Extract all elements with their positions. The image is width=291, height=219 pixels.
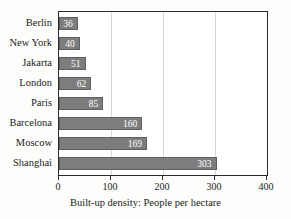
xtick-mark [266, 176, 267, 180]
category-label: Berlin [26, 16, 52, 29]
gridline-200 [163, 12, 164, 175]
bar-value-label: 51 [71, 58, 81, 71]
xtick-mark [58, 176, 59, 180]
category-label: London [19, 76, 52, 89]
bar-moscow: 169 [59, 137, 147, 150]
category-label: Barcelona [9, 116, 52, 129]
plot-area: 36 40 51 62 85 160 169 303 [58, 11, 268, 176]
bar-value-label: 169 [128, 138, 142, 151]
category-label: Shanghai [13, 156, 52, 169]
bar-value-label: 36 [63, 18, 73, 31]
category-label: Paris [31, 96, 52, 109]
bar-barcelona: 160 [59, 117, 142, 130]
category-label: Moscow [16, 136, 52, 149]
xtick-label: 0 [56, 181, 61, 192]
xtick-mark [162, 176, 163, 180]
xtick-mark [110, 176, 111, 180]
category-axis: Berlin New York Jakarta London Paris Bar… [0, 11, 55, 176]
bar-london: 62 [59, 77, 91, 90]
bar-value-label: 160 [123, 118, 137, 131]
bar-jakarta: 51 [59, 57, 86, 70]
xtick-label: 100 [103, 181, 118, 192]
xtick-label: 300 [207, 181, 222, 192]
bar-paris: 85 [59, 97, 103, 110]
bar-value-label: 40 [65, 38, 75, 51]
bar-chart: Berlin New York Jakarta London Paris Bar… [0, 0, 291, 219]
xtick-mark [214, 176, 215, 180]
bar-value-label: 85 [89, 98, 99, 111]
category-label: Jakarta [22, 56, 52, 69]
xtick-label: 200 [155, 181, 170, 192]
bar-shanghai: 303 [59, 157, 217, 170]
gridline-300 [215, 12, 216, 175]
category-label: New York [9, 36, 52, 49]
bar-value-label: 62 [77, 78, 87, 91]
bar-berlin: 36 [59, 17, 78, 30]
gridline-100 [111, 12, 112, 175]
bar-new-york: 40 [59, 37, 80, 50]
bar-value-label: 303 [197, 158, 211, 171]
xtick-label: 400 [259, 181, 274, 192]
x-axis-title: Built-up density: People per hectare [0, 197, 291, 208]
